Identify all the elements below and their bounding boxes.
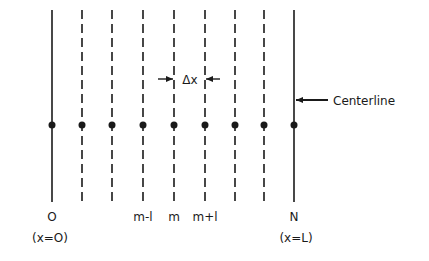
node-7 [232,122,239,129]
node-m-plus-1 [202,122,209,129]
finite-difference-grid-diagram: Δx Centerline O (x=O) m-l m m+l N (x=L) [0,0,429,261]
node-m-minus-1 [140,122,147,129]
grid-nodes [49,122,298,129]
node-0 [49,122,56,129]
centerline-label: Centerline [333,94,395,108]
node-label-N: N [290,210,299,224]
node-N [291,122,298,129]
grid-lines [52,10,294,202]
node-8 [261,122,268,129]
node-1 [79,122,86,129]
node-label-m: m [168,210,180,224]
node-2 [109,122,116,129]
position-label-right: (x=L) [279,231,312,245]
node-label-0: O [47,210,56,224]
delta-x-label: Δx [182,73,197,87]
node-label-m-plus-1: m+l [192,210,217,224]
node-m [171,122,178,129]
node-label-m-minus-1: m-l [133,210,152,224]
position-label-left: (x=O) [32,231,68,245]
